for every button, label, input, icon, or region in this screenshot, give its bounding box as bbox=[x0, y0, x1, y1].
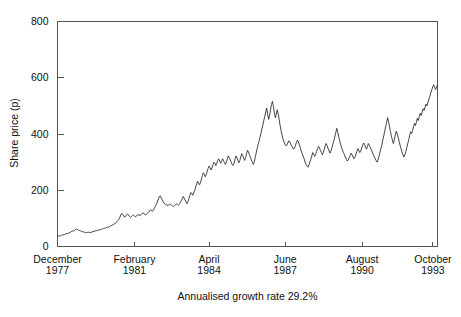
x-axis-tick-label-month: February bbox=[113, 253, 156, 265]
y-axis-title: Share price (p) bbox=[8, 98, 20, 167]
x-axis-tick-label-month: April bbox=[199, 253, 220, 265]
series-line-1 bbox=[58, 85, 438, 237]
plot-frame bbox=[58, 22, 438, 247]
share-price-chart: 0200400600800December1977February1981Apr… bbox=[0, 0, 461, 317]
y-axis-tick-label: 0 bbox=[43, 240, 49, 252]
x-axis-tick-label-month: June bbox=[274, 253, 297, 265]
y-axis-tick-label: 200 bbox=[31, 184, 49, 196]
x-axis-tick-label-year: 1990 bbox=[350, 264, 374, 276]
x-axis-tick-label-month: December bbox=[33, 253, 82, 265]
y-axis-tick-label: 600 bbox=[31, 71, 49, 83]
x-axis-tick-label-year: 1984 bbox=[197, 264, 221, 276]
chart-caption: Annualised growth rate 29.2% bbox=[177, 290, 317, 302]
x-axis-tick-label-month: August bbox=[346, 253, 379, 265]
x-axis-tick-label-year: 1981 bbox=[123, 264, 147, 276]
x-axis-tick-label-month: October bbox=[414, 253, 452, 265]
y-axis-tick-label: 400 bbox=[31, 128, 49, 140]
x-axis-tick-label-year: 1993 bbox=[421, 264, 445, 276]
y-axis-tick-label: 800 bbox=[31, 15, 49, 27]
x-axis-tick-label-year: 1977 bbox=[46, 264, 70, 276]
x-axis-tick-label-year: 1987 bbox=[274, 264, 298, 276]
